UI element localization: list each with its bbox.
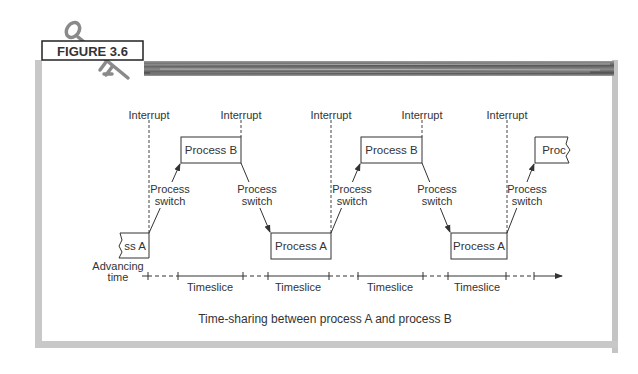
svg-text:switch: switch <box>242 195 273 207</box>
process-label: Process A <box>275 240 327 252</box>
timeslice-label: Timeslice <box>275 281 321 293</box>
interrupt-label: Interrupt <box>221 109 262 121</box>
figure-label-box: FIGURE 3.6 <box>42 41 143 60</box>
svg-text:Process: Process <box>237 183 277 195</box>
process-label: Proc <box>542 144 566 156</box>
time-axis <box>142 272 562 280</box>
timeslice-label: Timeslice <box>454 281 500 293</box>
header-stripe <box>144 61 614 76</box>
svg-text:Process: Process <box>417 183 457 195</box>
switch-label: Process switch <box>237 182 278 208</box>
switch-label: Process switch <box>507 182 547 208</box>
switch-label: Process switch <box>332 182 372 208</box>
svg-text:switch: switch <box>337 195 368 207</box>
timeslice-label: Timeslice <box>367 281 413 293</box>
svg-text:Process: Process <box>150 183 190 195</box>
process-label: Process B <box>365 144 418 156</box>
svg-text:switch: switch <box>512 195 543 207</box>
interrupt-label: Interrupt <box>129 109 170 121</box>
interrupt-label: Interrupt <box>487 109 528 121</box>
timeslice-label: Timeslice <box>187 281 233 293</box>
svg-text:Process: Process <box>332 183 372 195</box>
svg-text:switch: switch <box>422 195 453 207</box>
switch-label: Process switch <box>150 182 190 208</box>
figure-label: FIGURE 3.6 <box>57 44 128 59</box>
svg-text:Process: Process <box>507 183 547 195</box>
interrupt-label: Interrupt <box>402 109 443 121</box>
process-label: ss A <box>124 240 146 252</box>
svg-text:time: time <box>108 271 129 283</box>
svg-text:switch: switch <box>155 195 186 207</box>
interrupt-label: Interrupt <box>311 109 352 121</box>
process-label: Process B <box>185 144 238 156</box>
figure-caption: Time-sharing between process A and proce… <box>198 312 452 326</box>
switch-label: Process switch <box>417 182 458 208</box>
axis-label: Advancing time <box>92 260 143 283</box>
figure-canvas: FIGURE 3.6 Interrupt Interrupt Interrupt… <box>0 0 638 374</box>
process-label: Process A <box>453 240 505 252</box>
